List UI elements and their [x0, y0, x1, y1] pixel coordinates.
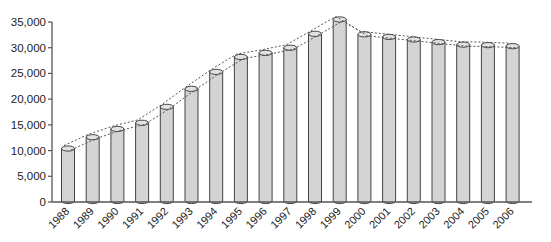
bar-2005 — [481, 43, 494, 204]
y-axis: 05,00010,00015,00020,00025,00030,00035,0… — [11, 16, 52, 208]
x-tick-label: 2000 — [342, 205, 368, 231]
x-tick-label: 1992 — [144, 205, 170, 231]
x-tick-label: 1996 — [243, 205, 269, 231]
bar-2002 — [407, 37, 420, 204]
y-tick-label: 15,000 — [11, 119, 46, 131]
x-tick-label: 2005 — [466, 205, 492, 231]
x-tick-label: 1993 — [169, 205, 195, 231]
y-tick-label: 30,000 — [11, 42, 46, 54]
y-tick-label: 20,000 — [11, 93, 46, 105]
x-tick-label: 2002 — [391, 205, 417, 231]
bar-1988 — [62, 146, 75, 204]
x-tick-label: 1991 — [120, 205, 146, 231]
bar-1991 — [136, 120, 149, 203]
bar-2001 — [383, 34, 396, 203]
y-tick-label: 0 — [40, 196, 46, 208]
bar-1989 — [86, 135, 99, 204]
y-tick-label: 35,000 — [11, 16, 46, 28]
bar-1990 — [111, 126, 124, 203]
y-tick-label: 5,000 — [17, 170, 46, 182]
x-tick-label: 2001 — [367, 205, 393, 231]
x-axis: 1988198919901991199219931994199519961997… — [46, 202, 532, 231]
x-tick-label: 1999 — [317, 205, 343, 231]
x-tick-label: 1995 — [219, 205, 245, 231]
bar-1997 — [284, 45, 297, 203]
bar-2000 — [358, 32, 371, 204]
x-tick-label: 1998 — [293, 205, 319, 231]
bar-2004 — [457, 42, 470, 204]
x-tick-label: 2004 — [441, 205, 467, 231]
bar-1995 — [234, 54, 247, 203]
y-tick-label: 10,000 — [11, 145, 46, 157]
bar-1996 — [259, 50, 272, 203]
bar-1999 — [333, 17, 346, 204]
y-tick-label: 25,000 — [11, 67, 46, 79]
x-tick-label: 1994 — [194, 205, 220, 231]
x-tick-label: 1988 — [46, 205, 72, 231]
bar-2003 — [432, 39, 445, 203]
bar-1993 — [185, 86, 198, 203]
x-tick-label: 2003 — [416, 205, 442, 231]
x-tick-label: 1990 — [95, 205, 121, 231]
x-tick-label: 2006 — [490, 205, 516, 231]
bar-1998 — [309, 31, 322, 203]
x-tick-label: 1997 — [268, 205, 294, 231]
x-tick-label: 1989 — [70, 205, 96, 231]
bar-chart: 05,00010,00015,00020,00025,00030,00035,0… — [0, 0, 551, 242]
bar-2006 — [506, 44, 519, 204]
bar-1994 — [210, 69, 223, 203]
bar-1992 — [160, 104, 173, 203]
